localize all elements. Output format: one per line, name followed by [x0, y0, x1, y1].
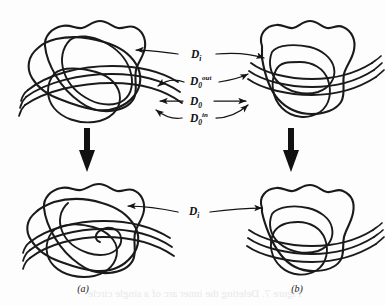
panel-a-after: [23, 184, 174, 277]
caption-panel-b: (b): [291, 283, 303, 295]
label-d0-sub: 0: [198, 101, 202, 110]
label-d-i-top-sub: i: [199, 54, 202, 63]
figure-canvas: Di D0out D0 D0in: [0, 0, 385, 306]
panel-b-after: [247, 185, 384, 275]
svg-text:Di: Di: [188, 205, 200, 220]
left-transform-arrow: [79, 128, 95, 172]
right-transform-arrow: [283, 128, 299, 172]
svg-text:D0: D0: [189, 95, 202, 110]
label-d-i-top: Di: [190, 48, 202, 63]
label-d-i-bottom-sub: i: [197, 211, 200, 220]
label-d0-out-sup: out: [202, 74, 212, 82]
svg-text:Di: Di: [190, 48, 202, 63]
label-d0-in-sup: in: [202, 111, 208, 119]
svg-text:D0out: D0out: [189, 74, 213, 90]
caption-panel-a: (a): [77, 283, 89, 295]
panel-b-before: [248, 21, 384, 117]
label-d0-in: D0in: [189, 111, 208, 127]
label-d0-out: D0out: [189, 74, 213, 90]
figure-root: Figure 7. Deleting the inner arc of a si…: [0, 0, 385, 306]
panel-a-before: [19, 21, 182, 122]
label-d0: D0: [189, 95, 202, 110]
svg-text:D0in: D0in: [189, 111, 208, 127]
label-d-i-bottom: Di: [188, 205, 200, 220]
